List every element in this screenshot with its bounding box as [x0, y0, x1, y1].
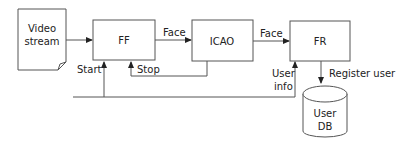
- edge-register-user: Register user: [318, 61, 396, 84]
- edge-start: Start: [73, 61, 295, 97]
- fr-label: FR: [314, 36, 327, 47]
- ff-node: FF: [93, 20, 155, 60]
- ff-label: FF: [118, 35, 130, 46]
- edge-user-info: User info: [272, 61, 298, 97]
- edge-stop: Stop: [128, 61, 207, 76]
- flow-diagram: Video stream FF Face ICAO Face FR Stop: [0, 0, 397, 143]
- stop-label: Stop: [137, 64, 160, 75]
- arrowhead-icon: [292, 61, 298, 68]
- video-stream-label-line2: stream: [24, 36, 59, 47]
- arrowhead-icon: [283, 38, 290, 44]
- video-stream-node: Video stream: [18, 9, 66, 70]
- arrowhead-icon: [318, 77, 324, 84]
- face-label-1: Face: [163, 27, 186, 38]
- arrowhead-icon: [128, 61, 134, 68]
- arrowhead-icon: [86, 37, 93, 43]
- register-user-label: Register user: [329, 68, 396, 79]
- user-info-label-line1: User: [272, 68, 296, 79]
- user-info-label-line2: info: [274, 81, 293, 92]
- edge-video-to-ff: [66, 37, 93, 43]
- user-db-label-line2: DB: [318, 121, 333, 132]
- start-label: Start: [77, 64, 102, 75]
- user-db-label-line1: User: [314, 108, 338, 119]
- arrowhead-icon: [185, 37, 192, 43]
- edge-ff-to-icao: Face: [155, 27, 192, 43]
- arrowhead-icon: [101, 61, 107, 68]
- video-stream-label-line1: Video: [28, 23, 56, 34]
- user-db-node: User DB: [303, 86, 347, 137]
- icao-label: ICAO: [210, 36, 235, 47]
- edge-icao-to-fr: Face: [253, 28, 290, 44]
- fr-node: FR: [290, 21, 350, 61]
- icao-node: ICAO: [192, 20, 253, 61]
- face-label-2: Face: [260, 28, 283, 39]
